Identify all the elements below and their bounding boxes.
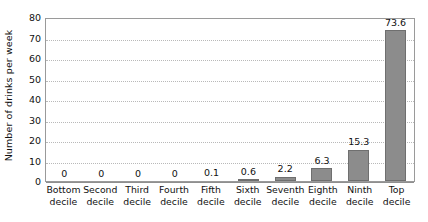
x-tick-label: Thirddecile [119, 184, 156, 220]
bar-value-label: 6.3 [314, 156, 329, 166]
x-tick-label-line: Fourth [156, 184, 193, 196]
y-tick-label: 80 [29, 13, 41, 23]
x-tick-label-line: decile [192, 196, 229, 208]
x-tick-label: Seconddecile [82, 184, 119, 220]
x-tick-label: Seventhdecile [266, 184, 304, 220]
y-axis-title: Number of drinks per week [0, 0, 18, 190]
bar-slot: 0 [120, 19, 157, 181]
x-tick-label-line: decile [119, 196, 156, 208]
y-tick-label: 70 [29, 34, 41, 44]
bar-slot: 2.2 [267, 19, 304, 181]
x-tick-label-line: Seventh [266, 184, 304, 196]
y-tick-label: 60 [29, 54, 41, 64]
x-tick-label-line: decile [341, 196, 378, 208]
x-tick-label-line: decile [82, 196, 119, 208]
gridline [46, 182, 414, 183]
bar-value-label: 73.6 [385, 18, 406, 28]
bar-slot: 6.3 [304, 19, 341, 181]
x-tick-label-line: Second [82, 184, 119, 196]
x-tick-label-line: Fifth [192, 184, 229, 196]
bar-slot: 0 [83, 19, 120, 181]
y-tick-label: 40 [29, 95, 41, 105]
x-tick-label-line: Ninth [341, 184, 378, 196]
x-tick-label-line: Sixth [229, 184, 266, 196]
bar-chart: Number of drinks per week 80706050403020… [0, 0, 428, 222]
bar-value-label: 0 [135, 169, 141, 179]
x-tick-label-line: decile [378, 196, 415, 208]
bar[interactable] [275, 177, 296, 182]
bar-value-label: 15.3 [348, 137, 369, 147]
bars-layer: 00000.10.62.26.315.373.6 [46, 19, 414, 181]
bar-value-label: 0.6 [241, 167, 256, 177]
bar-value-label: 0.1 [204, 168, 219, 178]
x-tick-label-line: decile [266, 196, 304, 208]
bar[interactable] [348, 150, 369, 181]
y-axis-title-text: Number of drinks per week [4, 29, 15, 161]
bar[interactable] [385, 30, 406, 181]
x-tick-label: Ninthdecile [341, 184, 378, 220]
y-tick-label: 10 [29, 157, 41, 167]
bar-value-label: 0 [172, 169, 178, 179]
x-tick-label: Eighthdecile [304, 184, 341, 220]
bar-slot: 73.6 [377, 19, 414, 181]
bar-slot: 0 [46, 19, 83, 181]
x-tick-label-line: Eighth [304, 184, 341, 196]
x-tick-label: Fourthdecile [156, 184, 193, 220]
x-tick-label: Bottomdecile [45, 184, 82, 220]
x-tick-label-line: decile [156, 196, 193, 208]
x-tick-label-line: decile [45, 196, 82, 208]
bar-value-label: 0 [98, 169, 104, 179]
bar[interactable] [311, 168, 332, 181]
y-tick-label: 30 [29, 116, 41, 126]
bar-value-label: 2.2 [278, 164, 293, 174]
x-tick-label: Fifthdecile [192, 184, 229, 220]
x-tick-label: Sixthdecile [229, 184, 266, 220]
x-tick-label-line: decile [229, 196, 266, 208]
x-tick-label-line: Bottom [45, 184, 82, 196]
x-tick-label-line: decile [304, 196, 341, 208]
bar-value-label: 0 [61, 169, 67, 179]
bar[interactable] [238, 179, 259, 181]
plot-area: 00000.10.62.26.315.373.6 [45, 18, 415, 182]
bar-slot: 0.1 [193, 19, 230, 181]
y-tick-label: 50 [29, 75, 41, 85]
x-axis-tick-labels: BottomdecileSeconddecileThirddecileFourt… [45, 184, 415, 220]
x-tick-label: Topdecile [378, 184, 415, 220]
x-tick-label-line: Top [378, 184, 415, 196]
y-axis-tick-labels: 80706050403020100 [18, 18, 44, 182]
bar-slot: 0 [156, 19, 193, 181]
y-tick-label: 20 [29, 136, 41, 146]
bar-slot: 0.6 [230, 19, 267, 181]
bar-slot: 15.3 [340, 19, 377, 181]
x-tick-label-line: Third [119, 184, 156, 196]
y-tick-label: 0 [35, 177, 41, 187]
